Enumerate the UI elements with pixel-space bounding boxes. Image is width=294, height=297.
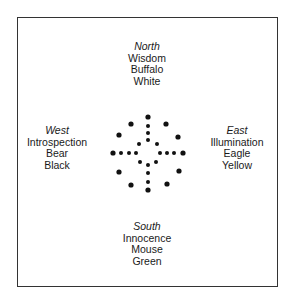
medicine-wheel-dots-icon <box>0 0 294 297</box>
